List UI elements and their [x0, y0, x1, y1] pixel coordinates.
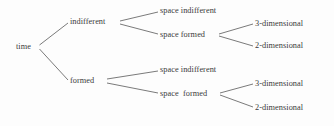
node-indifferent: indifferent	[70, 18, 105, 26]
node-formed: formed	[70, 77, 94, 85]
node-3-dimensional-lower: 3-dimensional	[255, 80, 303, 88]
edge-space-formed-lower-to-3d	[220, 84, 253, 93]
edge-space-formed-lower-to-2d	[220, 95, 253, 107]
node-2-dimensional-upper: 2-dimensional	[255, 42, 303, 50]
edge-indifferent-to-space-indifferent	[120, 12, 158, 21]
edge-indifferent-to-space-formed	[120, 24, 158, 34]
node-space-formed-upper: space formed	[160, 31, 205, 39]
node-space-indifferent-upper: space indifferent	[160, 7, 216, 15]
node-2-dimensional-lower: 2-dimensional	[255, 104, 303, 112]
tree-diagram: time indifferent formed space indifferen…	[0, 0, 334, 126]
node-space-formed-lower: space formed	[160, 90, 207, 98]
edge-formed-to-space-formed	[107, 83, 158, 93]
node-3-dimensional-upper: 3-dimensional	[255, 20, 303, 28]
edge-space-formed-upper-to-3d	[219, 24, 253, 34]
edge-space-formed-upper-to-2d	[219, 36, 253, 46]
node-time: time	[16, 43, 31, 51]
edge-formed-to-space-indifferent	[107, 71, 158, 79]
node-space-indifferent-lower: space indifferent	[160, 66, 216, 74]
edge-time-to-indifferent	[40, 23, 69, 45]
edge-time-to-formed	[40, 49, 69, 80]
